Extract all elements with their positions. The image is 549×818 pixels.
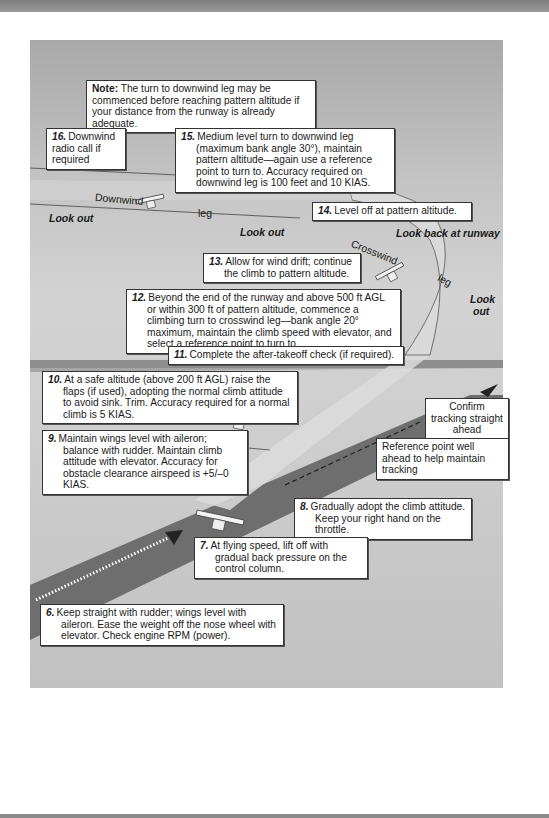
callout-text: Reference point well ahead to help maint… <box>382 441 485 475</box>
step-15-box: 15.Medium level turn to downwind leg (ma… <box>175 128 395 193</box>
confirm-tracking-callout: Confirm tracking straight ahead <box>425 398 509 440</box>
note-label: Note: <box>92 83 118 94</box>
step-text: Level off at pattern altitude. <box>334 205 457 216</box>
step-text: At a safe altitude (above 200 ft AGL) ra… <box>63 374 289 420</box>
note-text: The turn to downwind leg may be commence… <box>92 83 299 129</box>
aircraft-crosswind-icon <box>375 262 407 287</box>
step-text: At flying speed, lift off with gradual b… <box>211 540 347 574</box>
step-number: 15. <box>181 131 195 142</box>
step-text: Maintain wings level with aileron; balan… <box>59 433 229 490</box>
downwind-leg-label: leg <box>198 207 212 219</box>
look-back-label: Look back at runway <box>396 227 500 239</box>
step-text: Keep straight with rudder; wings level w… <box>57 607 277 641</box>
step-11-box: 11.Complete the after-takeoff check (if … <box>168 346 404 365</box>
step-text: Complete the after-takeoff check (if req… <box>189 349 394 360</box>
step-number: 10. <box>48 374 62 385</box>
step-number: 8. <box>300 501 309 512</box>
step-14-box: 14.Level off at pattern altitude. <box>312 202 472 221</box>
step-16-box: 16.Downwind radio call if required <box>46 128 126 170</box>
step-text: Beyond the end of the runway and above 5… <box>147 292 392 349</box>
step-number: 12. <box>132 292 146 303</box>
reference-point-callout: Reference point well ahead to help maint… <box>376 438 509 480</box>
step-12-box: 12.Beyond the end of the runway and abov… <box>126 289 401 354</box>
bottom-border <box>0 814 549 818</box>
step-number: 11. <box>174 349 187 360</box>
step-number: 16. <box>52 131 66 142</box>
step-6-box: 6.Keep straight with rudder; wings level… <box>40 604 284 646</box>
step-9-box: 9.Maintain wings level with aileron; bal… <box>42 430 248 495</box>
step-number: 6. <box>46 607 55 618</box>
step-text: Medium level turn to downwind leg (maxim… <box>196 131 372 188</box>
step-number: 14. <box>318 205 332 216</box>
note-box: Note: The turn to downwind leg may be co… <box>86 80 316 133</box>
step-10-box: 10.At a safe altitude (above 200 ft AGL)… <box>42 371 298 424</box>
look-out-right-label-2: out <box>473 305 489 317</box>
look-out-right-label-1: Look <box>470 293 495 305</box>
step-7-box: 7.At flying speed, lift off with gradual… <box>194 537 368 579</box>
step-number: 7. <box>200 540 209 551</box>
callout-text: Confirm tracking straight ahead <box>431 401 503 435</box>
step-text: Allow for wind drift; continue the climb… <box>224 256 352 279</box>
step-number: 9. <box>48 433 57 444</box>
step-13-box: 13.Allow for wind drift; continue the cl… <box>203 253 361 283</box>
look-out-left-label: Look out <box>49 212 93 224</box>
step-number: 13. <box>209 256 223 267</box>
step-text: Gradually adopt the climb attitude. Keep… <box>311 501 466 535</box>
look-out-mid-label: Look out <box>240 226 284 238</box>
step-8-box: 8.Gradually adopt the climb attitude. Ke… <box>294 498 472 540</box>
